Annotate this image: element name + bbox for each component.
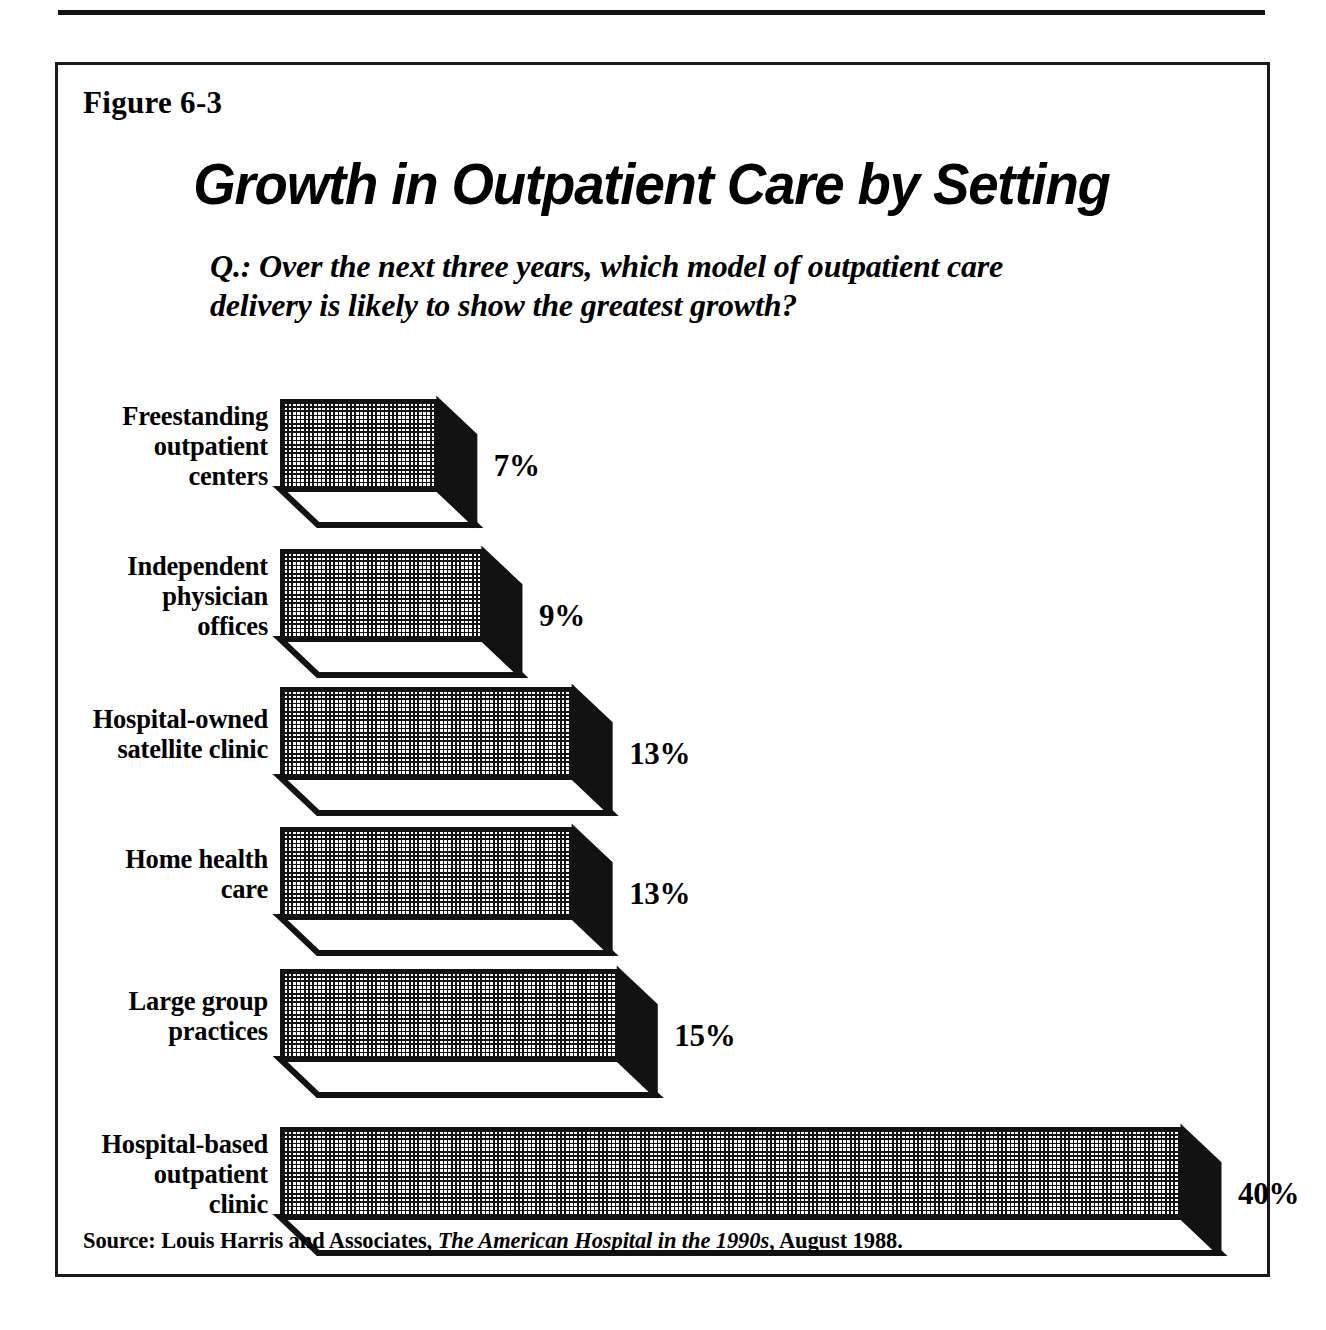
bar-category-label: Hospital-basedoutpatientclinic	[43, 1130, 268, 1219]
bar-3d	[280, 549, 521, 677]
bar-category-label-line: outpatient	[43, 432, 268, 462]
bar-category-label-line: Freestanding	[43, 402, 268, 432]
page-header-rule	[58, 10, 1265, 15]
bar-front-face	[280, 399, 438, 491]
source-note: Source: Louis Harris and Associates, The…	[83, 1228, 903, 1254]
chart-title: Growth in Outpatient Care by Setting	[94, 150, 1210, 217]
bar-category-label: Hospital-ownedsatellite clinic	[43, 705, 268, 764]
source-publication-title: The American Hospital in the 1990s	[438, 1228, 769, 1253]
bar-category-label: Large grouppractices	[43, 987, 268, 1046]
bar-3d	[280, 399, 476, 527]
bar-category-label-line: clinic	[43, 1190, 268, 1220]
bar-front-face	[280, 549, 483, 641]
bar-3d	[280, 687, 611, 815]
bar-value-label: 15%	[674, 1018, 735, 1054]
bar-value-label: 13%	[629, 736, 690, 772]
bar-3d	[280, 969, 656, 1097]
bar-category-label-line: satellite clinic	[43, 735, 268, 765]
bar-front-face	[280, 969, 618, 1061]
source-prefix: Source: Louis Harris and Associates,	[83, 1228, 438, 1253]
bar-chart-plot-area: Freestandingoutpatientcenters7%Independe…	[58, 337, 1267, 1192]
bar-category-label-line: Hospital-based	[43, 1130, 268, 1160]
bar-3d	[280, 827, 611, 955]
bar-category-label-line: practices	[43, 1017, 268, 1047]
bar-category-label-line: Large group	[43, 987, 268, 1017]
bar-value-label: 7%	[494, 448, 540, 484]
bar-front-face	[280, 687, 573, 779]
figure-frame: Figure 6-3 Growth in Outpatient Care by …	[55, 62, 1270, 1277]
bar-category-label-line: Independent	[43, 552, 268, 582]
bar-value-label: 13%	[629, 876, 690, 912]
bar-category-label-line: centers	[43, 462, 268, 492]
source-suffix: , August 1988.	[769, 1228, 903, 1253]
bar-category-label-line: care	[43, 875, 268, 905]
bar-category-label-line: physician	[43, 582, 268, 612]
bar-category-label-line: Hospital-owned	[43, 705, 268, 735]
bar-category-label-line: offices	[43, 612, 268, 642]
figure-label: Figure 6-3	[83, 85, 222, 121]
bar-category-label: Home healthcare	[43, 845, 268, 904]
bar-front-face	[280, 1127, 1182, 1219]
bar-category-label-line: Home health	[43, 845, 268, 875]
bar-category-label: Independentphysicianoffices	[43, 552, 268, 641]
bar-front-face	[280, 827, 573, 919]
chart-question: Q.: Over the next three years, which mod…	[210, 247, 1110, 325]
bar-value-label: 40%	[1238, 1176, 1299, 1212]
bar-category-label: Freestandingoutpatientcenters	[43, 402, 268, 491]
bar-value-label: 9%	[539, 598, 585, 634]
bar-category-label-line: outpatient	[43, 1160, 268, 1190]
